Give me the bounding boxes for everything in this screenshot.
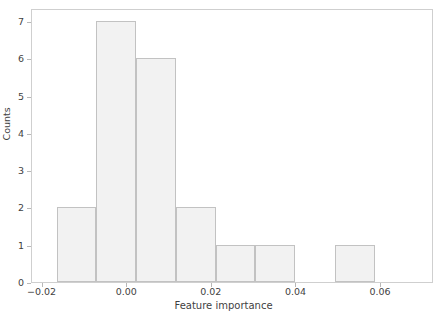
y-tick-label: 2 (0, 203, 24, 213)
histogram-bar (57, 207, 97, 282)
y-tick-label: 5 (0, 92, 24, 102)
y-tick-mark (27, 22, 31, 23)
y-tick-mark (27, 208, 31, 209)
y-tick-label: 1 (0, 241, 24, 251)
histogram-figure: Counts 01234567 −0.020.000.020.040.06 Fe… (0, 0, 447, 321)
x-axis-label: Feature importance (0, 300, 447, 311)
y-tick-label: 3 (0, 166, 24, 176)
x-tick-label: 0.02 (200, 286, 221, 297)
x-tick-label: −0.02 (27, 286, 56, 297)
histogram-bar (176, 207, 216, 282)
y-tick-mark (27, 283, 31, 284)
y-tick-mark (27, 134, 31, 135)
x-tick-label: 0.04 (285, 286, 306, 297)
histogram-bar (216, 245, 256, 282)
x-tick-label: 0.00 (116, 286, 137, 297)
histogram-bar (255, 245, 295, 282)
y-tick-mark (27, 97, 31, 98)
y-tick-label: 6 (0, 54, 24, 64)
x-tick-label: 0.06 (370, 286, 391, 297)
y-tick-label: 4 (0, 129, 24, 139)
y-tick-label: 7 (0, 17, 24, 27)
y-tick-mark (27, 59, 31, 60)
y-tick-label: 0 (0, 278, 24, 288)
plot-area (31, 9, 433, 283)
histogram-bar (136, 58, 176, 282)
histogram-bar (335, 245, 375, 282)
y-tick-mark (27, 171, 31, 172)
histogram-bar (96, 21, 136, 282)
y-tick-mark (27, 246, 31, 247)
